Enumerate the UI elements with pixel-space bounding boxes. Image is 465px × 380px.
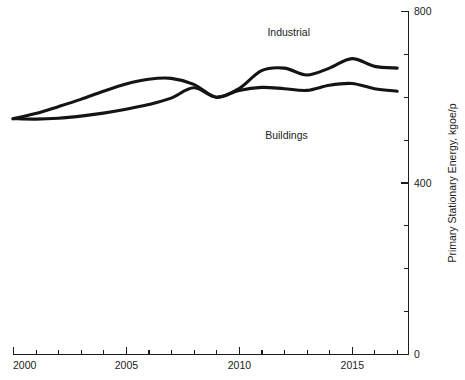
x-tick-label-2005: 2005 [115, 359, 139, 371]
chart-figure: 2000 2005 2010 2015 0 400 800 Primary St… [0, 0, 465, 380]
x-axis-ticks [14, 347, 398, 355]
series-label-buildings: Buildings [265, 129, 308, 141]
series-label-industrial: Industrial [267, 26, 310, 38]
x-tick-label-2015: 2015 [341, 359, 365, 371]
series-line-buildings [13, 78, 397, 119]
y-axis-title: Primary Stationary Energy, kgoe/p [446, 103, 458, 262]
x-tick-label-2000: 2000 [13, 359, 37, 371]
x-tick-label-2010: 2010 [228, 359, 252, 371]
series-line-industrial [13, 59, 397, 119]
y-tick-label-800: 800 [414, 5, 432, 17]
y-axis-ticks [401, 12, 409, 355]
y-tick-label-400: 400 [414, 177, 432, 189]
y-tick-label-0: 0 [414, 348, 420, 360]
line-chart: 2000 2005 2010 2015 0 400 800 Primary St… [0, 0, 465, 380]
